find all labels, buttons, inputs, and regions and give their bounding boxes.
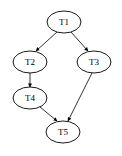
task-graph: T1 T2 T3 T4 T5 [0,0,122,156]
edge-t1-t3 [71,32,88,51]
node-label: T3 [89,57,99,67]
node-label: T2 [25,57,35,67]
node-t5: T5 [46,121,80,143]
edge-t3-t5 [68,73,92,121]
node-t3: T3 [77,51,111,73]
edge-t1-t2 [36,32,57,51]
node-label: T4 [25,93,35,103]
node-t2: T2 [13,51,47,73]
edge-t4-t5 [40,107,57,121]
node-t1: T1 [47,11,81,33]
node-label: T1 [59,17,69,27]
node-label: T5 [58,127,68,137]
node-t4: T4 [13,87,47,109]
